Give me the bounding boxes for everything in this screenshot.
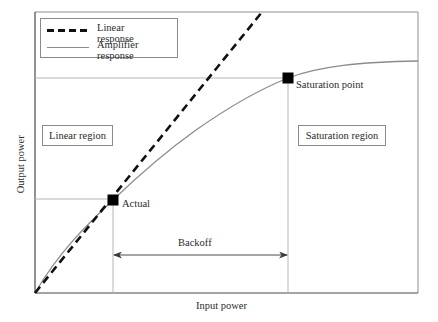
y-axis-title: Output power [16, 122, 27, 206]
saturation-point-label: Saturation point [296, 80, 363, 91]
marker-saturation-point [283, 73, 294, 84]
saturation-region-label: Saturation region [298, 125, 386, 146]
x-axis-title: Input power [196, 301, 247, 312]
legend: Linear response Amplifier response [40, 18, 178, 58]
legend-label-amplifier-response: Amplifier response [97, 39, 138, 61]
amplifier-response-figure: Linear response Amplifier response Linea… [0, 0, 438, 322]
legend-swatch-dashed-icon [47, 29, 89, 32]
backoff-label: Backoff [178, 238, 212, 249]
marker-actual [108, 195, 119, 206]
legend-swatch-solid-icon [47, 47, 89, 48]
linear-region-label: Linear region [42, 125, 113, 146]
actual-point-label: Actual [122, 199, 150, 210]
series-amplifier-response [35, 61, 418, 293]
